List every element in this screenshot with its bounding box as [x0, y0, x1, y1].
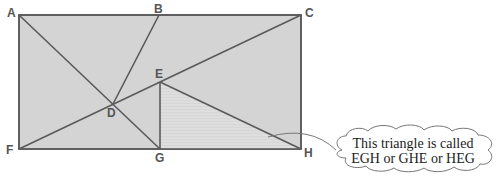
- label-d: D: [107, 106, 116, 120]
- label-e: E: [155, 67, 163, 81]
- label-a: A: [7, 6, 16, 20]
- callout-line-1: This triangle is called: [353, 136, 474, 151]
- label-h: H: [304, 146, 313, 160]
- label-f: F: [6, 143, 13, 157]
- geometry-diagram: A B C D E F G H This triangle is called …: [0, 0, 498, 176]
- label-c: C: [305, 6, 314, 20]
- label-g: G: [155, 151, 164, 165]
- callout-line-2: EGH or GHE or HEG: [351, 151, 475, 166]
- label-b: B: [154, 2, 163, 16]
